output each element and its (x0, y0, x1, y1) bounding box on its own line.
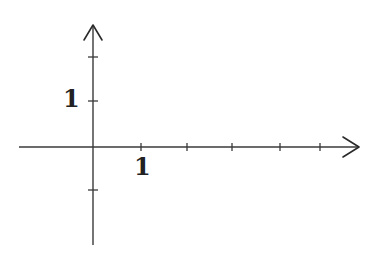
x-axis-unit-label: 1 (134, 155, 151, 179)
y-axis-unit-label: 1 (63, 87, 80, 111)
coordinate-axes-diagram (0, 0, 384, 268)
